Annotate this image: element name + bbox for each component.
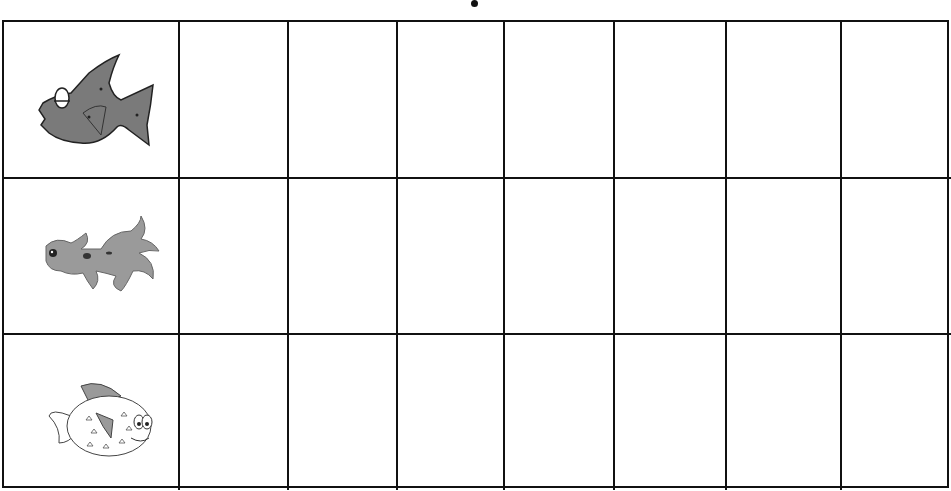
row-3-tally-cell-5[interactable] bbox=[615, 335, 727, 490]
row-2-picture-cell bbox=[4, 179, 180, 335]
row-1-tally-cell-6[interactable] bbox=[727, 22, 842, 179]
row-3-picture-cell bbox=[4, 335, 180, 490]
row-2-tally-cell-2[interactable] bbox=[289, 179, 398, 335]
row-1-tally-cell-1[interactable] bbox=[180, 22, 289, 179]
row-2-tally-cell-5[interactable] bbox=[615, 179, 727, 335]
row-2-tally-cell-1[interactable] bbox=[180, 179, 289, 335]
row-2-tally-cell-6[interactable] bbox=[727, 179, 842, 335]
row-1-tally-cell-4[interactable] bbox=[505, 22, 615, 179]
row-3-tally-cell-3[interactable] bbox=[398, 335, 505, 490]
goldfish-icon bbox=[21, 201, 161, 311]
tally-grid bbox=[2, 20, 949, 488]
row-3-tally-cell-2[interactable] bbox=[289, 335, 398, 490]
row-1-tally-cell-7[interactable] bbox=[842, 22, 951, 179]
row-3-tally-cell-4[interactable] bbox=[505, 335, 615, 490]
row-2-tally-cell-4[interactable] bbox=[505, 179, 615, 335]
row-1-tally-cell-5[interactable] bbox=[615, 22, 727, 179]
row-1-picture-cell bbox=[4, 22, 180, 179]
grumpy-fish-icon bbox=[21, 45, 161, 155]
title-dot: • bbox=[471, 0, 478, 7]
row-1-tally-cell-2[interactable] bbox=[289, 22, 398, 179]
row-3-tally-cell-7[interactable] bbox=[842, 335, 951, 490]
pufferfish-icon bbox=[21, 358, 161, 468]
row-2-tally-cell-7[interactable] bbox=[842, 179, 951, 335]
row-3-tally-cell-1[interactable] bbox=[180, 335, 289, 490]
row-2-tally-cell-3[interactable] bbox=[398, 179, 505, 335]
row-3-tally-cell-6[interactable] bbox=[727, 335, 842, 490]
row-1-tally-cell-3[interactable] bbox=[398, 22, 505, 179]
